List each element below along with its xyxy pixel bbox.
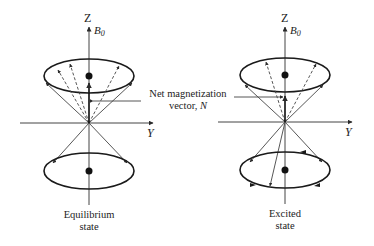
upper-center-dot-right — [282, 72, 289, 79]
lower-center-dot-left — [86, 168, 93, 175]
spin-vector-dashed — [58, 70, 89, 123]
nmr-precession-diagram: Z B0 Y Equilibrium state Net magnetizati… — [0, 0, 374, 246]
caption-equilibrium-line2: state — [79, 221, 99, 232]
z-axis-label-right: Z — [281, 11, 288, 25]
spin-vector-dashed — [89, 66, 119, 123]
z-axis-label-left: Z — [84, 11, 91, 25]
cone-edge-vector — [89, 123, 127, 163]
equilibrium-diagram: Z B0 Y Equilibrium state — [20, 11, 155, 232]
cone-edge-vector — [285, 122, 322, 162]
lower-center-dot-right — [282, 167, 289, 174]
spin-vector-dashed — [285, 64, 316, 122]
net-magnetization-label: Net magnetization vector, N — [93, 88, 283, 111]
cone-edge-vector — [89, 83, 132, 123]
net-magnetization-label-line2: vector, N — [169, 100, 208, 111]
upper-center-dot-left — [86, 73, 93, 80]
excited-diagram: Z B0 Y Excited state — [218, 11, 353, 231]
caption-excited-line1: Excited — [269, 208, 302, 219]
b0-label-right: B0 — [290, 24, 301, 38]
net-magnetization-label-line1: Net magnetization — [149, 88, 227, 99]
y-axis-label-left: Y — [147, 126, 155, 140]
b0-label-left: B0 — [94, 24, 105, 38]
y-axis-label-right: Y — [345, 125, 353, 139]
caption-equilibrium-line1: Equilibrium — [64, 209, 115, 220]
flipped-spin-vector — [270, 122, 285, 186]
caption-excited-line2: state — [275, 220, 295, 231]
